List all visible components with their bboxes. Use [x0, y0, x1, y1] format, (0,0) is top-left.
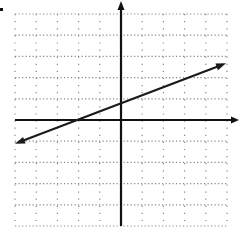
y-axis-arrow-icon: [118, 1, 125, 10]
coordinate-plane: [0, 0, 239, 234]
x-axis-arrow-icon: [231, 117, 239, 124]
arrowhead-right-icon: [215, 63, 226, 70]
arrowhead-left-icon: [15, 137, 26, 144]
